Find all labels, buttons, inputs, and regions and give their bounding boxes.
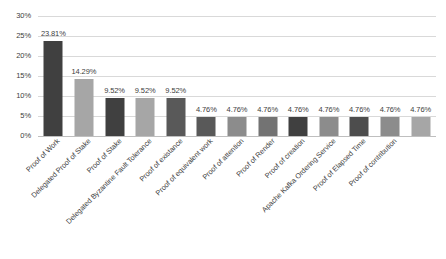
bar[interactable]	[44, 41, 63, 136]
x-axis-categories: Proof of WorkDelegated Proof of StakePro…	[38, 140, 436, 255]
x-axis-category-text: Delegated Proof of Stake	[30, 137, 92, 199]
bar-value-label: 14.29%	[71, 68, 96, 76]
bar-slot: 23.81%	[38, 16, 69, 136]
y-axis-tick-label: 20%	[16, 52, 31, 60]
y-axis-tick-label: 15%	[16, 72, 31, 80]
bar[interactable]	[74, 79, 93, 136]
y-axis-tick-label: 30%	[16, 12, 31, 20]
x-axis-category-text: Proof of equivalent work	[155, 137, 215, 197]
bar-value-label: 9.52%	[104, 87, 125, 95]
y-axis: 0%5%10%15%20%25%30%	[0, 16, 34, 136]
y-axis-tick-label: 5%	[20, 112, 31, 120]
y-axis-tick-label: 0%	[20, 132, 31, 140]
bar-value-label: 9.52%	[165, 87, 186, 95]
bar-chart: 0%5%10%15%20%25%30% 23.81%14.29%9.52%9.5…	[0, 0, 446, 259]
y-axis-tick-label: 25%	[16, 32, 31, 40]
bar-value-label: 23.81%	[41, 30, 66, 38]
y-axis-tick-label: 10%	[16, 92, 31, 100]
